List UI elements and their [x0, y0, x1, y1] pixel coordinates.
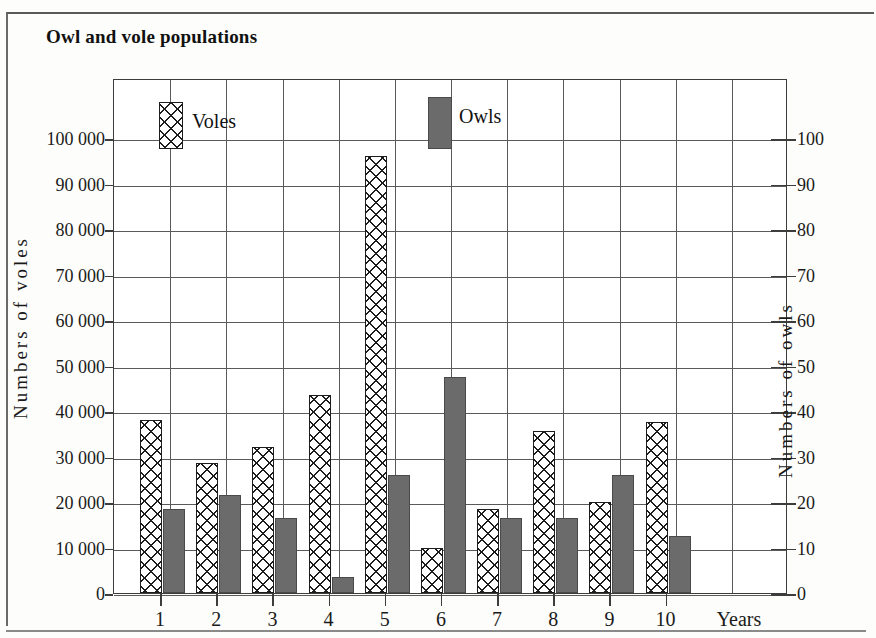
bar-voles: [477, 509, 499, 593]
y-axis-right-tickmark: [771, 139, 787, 141]
gridline-horizontal: [114, 595, 786, 596]
y-axis-right-tickmark: [771, 549, 787, 551]
y-axis-left-tick-label: 20 000: [5, 493, 105, 514]
x-axis-tick-label: 7: [492, 608, 502, 631]
x-axis-tick-label: 5: [380, 608, 390, 631]
bar-group: [114, 80, 786, 593]
bar-owls: [669, 536, 691, 593]
y-axis-left-tickmark: [105, 321, 113, 323]
x-axis-tickmark: [329, 594, 331, 606]
x-axis-tickmark: [272, 594, 274, 606]
x-axis-tick-label: 1: [155, 608, 165, 631]
y-axis-right-tickmark-outer: [787, 503, 796, 505]
plot-area: VolesOwls: [113, 79, 787, 594]
x-axis-tick-label: 3: [267, 608, 277, 631]
bar-owls: [332, 577, 354, 593]
y-axis-right-tickmark-outer: [787, 594, 796, 596]
y-axis-right-tickmark: [771, 594, 787, 596]
y-axis-right-tick-label: 90: [797, 174, 815, 195]
y-axis-right-tickmark-outer: [787, 185, 796, 187]
y-axis-right-title: Numbers of owls: [775, 302, 797, 478]
y-axis-left-tickmark: [105, 276, 113, 278]
x-axis-title: Years: [717, 608, 762, 631]
bar-owls: [500, 518, 522, 593]
y-axis-left-tickmark: [105, 139, 113, 141]
x-axis-tickmark: [441, 594, 443, 606]
y-axis-right-tickmark: [771, 185, 787, 187]
bar-voles: [421, 548, 443, 594]
y-axis-right-tick-label: 50: [797, 356, 815, 377]
y-axis-right-tick-label: 60: [797, 311, 815, 332]
legend-label-owls: Owls: [459, 105, 501, 128]
y-axis-left-tick-label: 0: [5, 584, 105, 605]
bar-voles: [309, 395, 331, 593]
bar-voles: [196, 463, 218, 593]
bar-voles: [365, 156, 387, 593]
scanned-page: Owl and vole populations 010 00020 00030…: [0, 0, 876, 638]
y-axis-left-title: Numbers of voles: [10, 236, 32, 419]
chart-title: Owl and vole populations: [46, 26, 257, 48]
y-axis-left-tickmark: [105, 367, 113, 369]
x-axis-tickmark: [609, 594, 611, 606]
y-axis-left-tickmark: [105, 549, 113, 551]
x-axis-tickmark: [666, 594, 668, 606]
y-axis-right-tick-label: 40: [797, 402, 815, 423]
bar-voles: [533, 431, 555, 593]
x-axis-tickmark: [497, 594, 499, 606]
y-axis-right-tick-label: 80: [797, 220, 815, 241]
bar-owls: [163, 509, 185, 593]
bar-owls: [275, 518, 297, 593]
y-axis-left-tickmark: [105, 412, 113, 414]
bar-owls: [388, 475, 410, 593]
y-axis-right-tickmark-outer: [787, 276, 796, 278]
bar-voles: [140, 420, 162, 593]
y-axis-right-tickmark: [771, 503, 787, 505]
x-axis-tick-label: 2: [211, 608, 221, 631]
bar-owls: [612, 475, 634, 593]
y-axis-left-tickmark: [105, 503, 113, 505]
y-axis-right-tickmark: [771, 230, 787, 232]
y-axis-right-tickmark-outer: [787, 230, 796, 232]
y-axis-right-tick-label: 20: [797, 493, 815, 514]
y-axis-left-tick-label: 30 000: [5, 447, 105, 468]
y-axis-right-tickmark-outer: [787, 139, 796, 141]
y-axis-left-tickmark: [105, 185, 113, 187]
legend-swatch-voles: [159, 102, 183, 149]
y-axis-left-tickmark: [105, 458, 113, 460]
x-axis-tick-label: 9: [604, 608, 614, 631]
y-axis-left-tickmark: [105, 230, 113, 232]
y-axis-right-tick-label: 10: [797, 538, 815, 559]
bar-voles: [589, 502, 611, 593]
x-axis-tickmark: [216, 594, 218, 606]
y-axis-left-tickmark: [105, 594, 113, 596]
bar-voles: [252, 447, 274, 593]
bar-owls: [444, 377, 466, 593]
bar-owls: [556, 518, 578, 593]
x-axis-tickmark: [160, 594, 162, 606]
y-axis-right-tick-label: 100: [797, 129, 824, 150]
y-axis-right-tick-label: 30: [797, 447, 815, 468]
x-axis-tickmark: [385, 594, 387, 606]
bar-owls: [219, 495, 241, 593]
y-axis-left-tick-label: 90 000: [5, 174, 105, 195]
legend-swatch-owls: [428, 97, 452, 149]
y-axis-right-tickmark: [771, 276, 787, 278]
x-axis-tickmark: [553, 594, 555, 606]
y-axis-right-tick-label: 70: [797, 265, 815, 286]
legend-label-voles: Voles: [192, 110, 236, 133]
y-axis-right-tick-label: 0: [797, 584, 806, 605]
bar-voles: [646, 422, 668, 593]
x-axis-tick-label: 4: [324, 608, 334, 631]
y-axis-right-tickmark-outer: [787, 549, 796, 551]
y-axis-left-tick-label: 100 000: [5, 129, 105, 150]
x-axis-tick-label: 6: [436, 608, 446, 631]
y-axis-left-tick-label: 10 000: [5, 538, 105, 559]
x-axis-tick-label: 10: [656, 608, 676, 631]
x-axis-tick-label: 8: [548, 608, 558, 631]
